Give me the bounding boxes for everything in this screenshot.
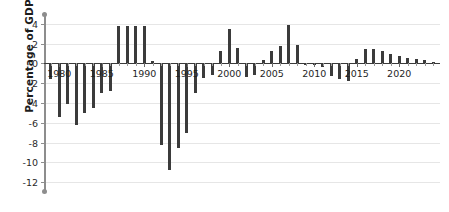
x-axis-minor-tick bbox=[119, 63, 120, 66]
chart-container: Percentage of GDP 420-2-4-6-8-10-1219801… bbox=[0, 0, 449, 212]
x-axis-minor-tick bbox=[365, 63, 366, 66]
bar bbox=[398, 56, 401, 64]
bar bbox=[126, 26, 129, 64]
x-axis-minor-tick bbox=[212, 63, 213, 66]
y-axis-endpoint bbox=[42, 12, 47, 17]
bar bbox=[389, 54, 392, 64]
y-axis-tick-label: 2 bbox=[32, 38, 38, 49]
x-axis-minor-tick bbox=[110, 63, 111, 66]
y-axis-tick bbox=[41, 103, 46, 104]
x-axis-minor-tick bbox=[204, 63, 205, 66]
bar bbox=[75, 63, 78, 124]
bar bbox=[287, 25, 290, 64]
gridline bbox=[44, 143, 440, 144]
bar bbox=[219, 51, 222, 64]
gridline bbox=[44, 123, 440, 124]
y-axis-tick-label: 4 bbox=[32, 18, 38, 29]
gridline bbox=[44, 162, 440, 163]
x-axis-minor-tick bbox=[76, 63, 77, 66]
bar bbox=[364, 49, 367, 64]
x-axis-tick bbox=[59, 63, 60, 67]
x-axis-tick-label: 2005 bbox=[260, 68, 284, 79]
x-axis-minor-tick bbox=[170, 63, 171, 66]
bar bbox=[279, 46, 282, 64]
x-axis-tick bbox=[399, 63, 400, 67]
x-axis-minor-tick bbox=[391, 63, 392, 66]
gridline bbox=[44, 24, 440, 25]
x-axis-tick-label: 1990 bbox=[132, 68, 156, 79]
gridline bbox=[44, 83, 440, 84]
y-axis-tick bbox=[41, 182, 46, 183]
zero-baseline bbox=[44, 63, 440, 64]
x-axis-minor-tick bbox=[246, 63, 247, 66]
bar bbox=[160, 63, 163, 144]
x-axis-tick-label: 2015 bbox=[345, 68, 369, 79]
gridline bbox=[44, 103, 440, 104]
bar bbox=[296, 45, 299, 64]
x-axis-tick-label: 2000 bbox=[217, 68, 241, 79]
y-axis-tick bbox=[41, 24, 46, 25]
x-axis-minor-tick bbox=[280, 63, 281, 66]
bar bbox=[372, 49, 375, 64]
y-axis-tick bbox=[41, 44, 46, 45]
y-axis-tick-label: -4 bbox=[29, 98, 38, 109]
y-axis-tick bbox=[41, 123, 46, 124]
y-axis-tick-label: -6 bbox=[29, 117, 38, 128]
x-axis-tick bbox=[144, 63, 145, 67]
x-axis-minor-tick bbox=[136, 63, 137, 66]
x-axis-tick-label: 2010 bbox=[302, 68, 326, 79]
x-axis-tick bbox=[314, 63, 315, 67]
x-axis-tick-label: 1985 bbox=[90, 68, 114, 79]
plot-area: 420-2-4-6-8-10-1219801985199019952000200… bbox=[44, 14, 440, 192]
bar bbox=[134, 26, 137, 64]
y-axis-tick-label: -12 bbox=[22, 177, 38, 188]
x-axis-minor-tick bbox=[297, 63, 298, 66]
gridline bbox=[44, 44, 440, 45]
y-axis-tick-label: -10 bbox=[22, 157, 38, 168]
x-axis-tick-label: 2020 bbox=[387, 68, 411, 79]
x-axis-minor-tick bbox=[331, 63, 332, 66]
x-axis-minor-tick bbox=[425, 63, 426, 66]
x-axis-minor-tick bbox=[85, 63, 86, 66]
x-axis-minor-tick bbox=[178, 63, 179, 66]
x-axis-minor-tick bbox=[161, 63, 162, 66]
y-axis-tick-label: 0 bbox=[32, 58, 38, 69]
x-axis-minor-tick bbox=[127, 63, 128, 66]
x-axis-minor-tick bbox=[306, 63, 307, 66]
x-axis-minor-tick bbox=[433, 63, 434, 66]
x-axis-minor-tick bbox=[323, 63, 324, 66]
x-axis-minor-tick bbox=[221, 63, 222, 66]
x-axis-minor-tick bbox=[153, 63, 154, 66]
bar bbox=[117, 26, 120, 64]
y-axis-tick bbox=[41, 143, 46, 144]
x-axis-tick bbox=[229, 63, 230, 67]
bar bbox=[83, 63, 86, 112]
x-axis-minor-tick bbox=[416, 63, 417, 66]
x-axis-minor-tick bbox=[348, 63, 349, 66]
x-axis-minor-tick bbox=[263, 63, 264, 66]
y-axis-tick bbox=[41, 162, 46, 163]
x-axis-minor-tick bbox=[289, 63, 290, 66]
x-axis-tick bbox=[187, 63, 188, 67]
x-axis-minor-tick bbox=[68, 63, 69, 66]
x-axis-tick bbox=[102, 63, 103, 67]
gridline bbox=[44, 182, 440, 183]
x-axis-tick bbox=[357, 63, 358, 67]
bar bbox=[270, 51, 273, 64]
x-axis-minor-tick bbox=[93, 63, 94, 66]
x-axis-minor-tick bbox=[382, 63, 383, 66]
x-axis-minor-tick bbox=[340, 63, 341, 66]
x-axis-tick-label: 1995 bbox=[175, 68, 199, 79]
bar bbox=[168, 63, 171, 170]
x-axis-tick-label: 1980 bbox=[47, 68, 71, 79]
x-axis-minor-tick bbox=[195, 63, 196, 66]
bar bbox=[228, 29, 231, 64]
y-axis-tick-label: -8 bbox=[29, 137, 38, 148]
x-axis-minor-tick bbox=[238, 63, 239, 66]
bar bbox=[143, 26, 146, 64]
x-axis-tick bbox=[272, 63, 273, 67]
y-axis-endpoint bbox=[42, 189, 47, 194]
x-axis-minor-tick bbox=[51, 63, 52, 66]
x-axis-minor-tick bbox=[374, 63, 375, 66]
x-axis-minor-tick bbox=[408, 63, 409, 66]
